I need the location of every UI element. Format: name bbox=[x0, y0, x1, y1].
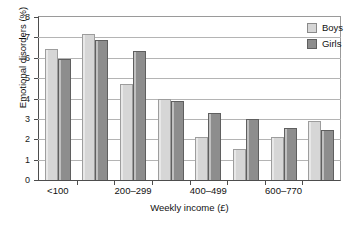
bar-highlight bbox=[172, 102, 174, 180]
bar-highlight bbox=[59, 60, 61, 180]
bar-highlight bbox=[46, 50, 48, 180]
legend-item-girls: Girls bbox=[307, 38, 343, 49]
bar-boys-0 bbox=[45, 49, 58, 180]
x-tick-label: 600–770 bbox=[265, 185, 302, 196]
bar-highlight bbox=[96, 41, 98, 180]
bar-highlight bbox=[83, 35, 85, 180]
bar-girls-4 bbox=[208, 113, 221, 180]
bar-group bbox=[227, 17, 265, 180]
bar-highlight bbox=[285, 129, 287, 180]
bar-group bbox=[114, 17, 152, 180]
boys-swatch-icon bbox=[307, 23, 317, 33]
bar-highlight bbox=[272, 138, 274, 180]
girls-swatch-icon bbox=[307, 39, 317, 49]
y-axis-title: Emotional disorders (%) bbox=[17, 0, 28, 133]
bar-group bbox=[265, 17, 303, 180]
bar-highlight bbox=[121, 85, 123, 180]
bar-girls-3 bbox=[171, 101, 184, 180]
bar-highlight bbox=[234, 150, 236, 180]
bar-girls-2 bbox=[133, 51, 146, 180]
x-axis-tick-labels: <100200–299400–499600–770 bbox=[38, 185, 341, 201]
bar-girls-6 bbox=[284, 128, 297, 180]
bar-highlight bbox=[209, 114, 211, 180]
bar-boys-5 bbox=[233, 149, 246, 180]
x-tick-label: 400–499 bbox=[190, 185, 227, 196]
bar-boys-4 bbox=[195, 137, 208, 180]
bar-highlight bbox=[322, 131, 324, 180]
plot-area bbox=[38, 16, 341, 181]
bar-group bbox=[190, 17, 228, 180]
legend-label-boys: Boys bbox=[322, 22, 343, 33]
bar-group bbox=[77, 17, 115, 180]
bar-boys-6 bbox=[271, 137, 284, 180]
bar-boys-1 bbox=[82, 34, 95, 180]
bar-group bbox=[152, 17, 190, 180]
bar-girls-1 bbox=[95, 40, 108, 180]
bar-groups bbox=[39, 17, 340, 180]
bar-girls-0 bbox=[58, 59, 71, 180]
x-axis-title: Weekly income (£) bbox=[38, 202, 341, 213]
figure-caption bbox=[4, 222, 164, 234]
bar-boys-7 bbox=[308, 121, 321, 180]
x-tick-label: 200–299 bbox=[115, 185, 152, 196]
bar-group bbox=[39, 17, 77, 180]
bar-highlight bbox=[247, 120, 249, 180]
bar-girls-7 bbox=[321, 130, 334, 180]
bar-highlight bbox=[134, 52, 136, 180]
bar-boys-3 bbox=[158, 99, 171, 181]
bar-highlight bbox=[309, 122, 311, 180]
bar-chart-figure: 012345678 Emotional disorders (%) <10020… bbox=[0, 0, 359, 236]
bar-highlight bbox=[196, 138, 198, 180]
bar-boys-2 bbox=[120, 84, 133, 180]
bar-girls-5 bbox=[246, 119, 259, 180]
chart-legend: Boys Girls bbox=[307, 22, 343, 54]
bar-highlight bbox=[159, 100, 161, 181]
legend-label-girls: Girls bbox=[322, 38, 342, 49]
x-tick-label: <100 bbox=[47, 185, 68, 196]
legend-item-boys: Boys bbox=[307, 22, 343, 33]
